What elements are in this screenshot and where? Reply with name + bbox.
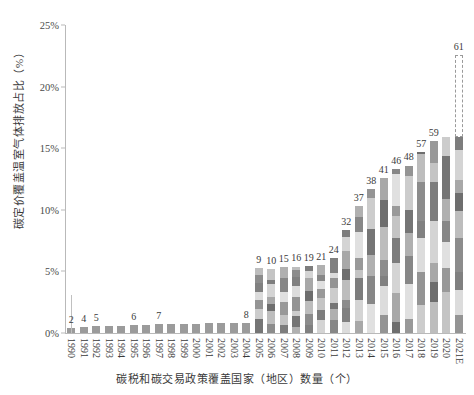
bar-segment bbox=[342, 308, 350, 322]
bar-segment bbox=[267, 324, 275, 333]
bar-segment bbox=[292, 297, 300, 311]
x-axis-tick-label: 2013 bbox=[354, 338, 364, 358]
bar-segment bbox=[442, 292, 450, 333]
x-axis-tick-label: 2014 bbox=[366, 338, 376, 358]
bar-segment bbox=[392, 263, 400, 292]
x-axis-tick-label: 1997 bbox=[154, 338, 164, 358]
bar-2017 bbox=[405, 165, 413, 333]
bar-1991 bbox=[80, 327, 88, 333]
x-axis-tick-label: 1992 bbox=[91, 338, 101, 358]
bar-value-label: 15 bbox=[279, 254, 289, 264]
bar-2014 bbox=[367, 189, 375, 333]
bar-segment bbox=[305, 291, 313, 301]
bar-segment bbox=[267, 311, 275, 323]
x-axis-tick-label: 1996 bbox=[141, 338, 151, 358]
x-axis-line bbox=[65, 333, 466, 334]
bar-segment bbox=[417, 221, 425, 238]
bar-segment bbox=[442, 199, 450, 221]
bar-segment bbox=[380, 227, 388, 261]
bar-segment bbox=[317, 320, 325, 334]
bar-segment bbox=[442, 137, 450, 156]
x-axis-tick-label: 1995 bbox=[129, 338, 139, 358]
x-axis-tick-label: 2006 bbox=[266, 338, 276, 358]
bar-segment bbox=[142, 325, 150, 333]
bar-1997 bbox=[155, 324, 163, 333]
bar-value-label: 21 bbox=[316, 252, 326, 262]
bar-segment bbox=[155, 324, 163, 333]
bar-segment bbox=[405, 166, 413, 176]
bar-segment bbox=[392, 174, 400, 206]
bar-2005 bbox=[255, 268, 263, 333]
bar-1994 bbox=[117, 326, 125, 333]
bar-1999 bbox=[180, 324, 188, 333]
bar-segment bbox=[405, 233, 413, 256]
bar-segment bbox=[442, 268, 450, 292]
y-axis-tick-mark bbox=[61, 271, 65, 272]
bar-segment bbox=[255, 300, 263, 309]
bar-segment bbox=[330, 258, 338, 273]
bar-value-label: 16 bbox=[291, 253, 301, 263]
bar-segment bbox=[255, 268, 263, 275]
bar-2006 bbox=[267, 269, 275, 333]
bar-value-label: 4 bbox=[81, 314, 86, 324]
bar-segment bbox=[80, 327, 88, 333]
bar-segment bbox=[342, 322, 350, 333]
bar-segment bbox=[405, 319, 413, 333]
y-axis-tick-mark bbox=[61, 25, 65, 26]
bar-1993 bbox=[105, 326, 113, 333]
x-axis-tick-label: 2010 bbox=[316, 338, 326, 358]
bar-segment bbox=[367, 198, 375, 229]
bar-segment bbox=[430, 302, 438, 333]
bar-segment bbox=[430, 221, 438, 263]
bar-segment bbox=[405, 176, 413, 210]
bar-segment bbox=[417, 238, 425, 272]
bar-2020 bbox=[442, 137, 450, 333]
bar-2004 bbox=[242, 323, 250, 333]
bar-segment bbox=[355, 206, 363, 217]
bar-segment bbox=[355, 217, 363, 233]
bar-segment bbox=[330, 320, 338, 333]
bar-2009 bbox=[305, 266, 313, 333]
bar-segment bbox=[442, 242, 450, 268]
bar-segment bbox=[305, 271, 313, 278]
bar-segment bbox=[217, 323, 225, 333]
bar-1995 bbox=[130, 325, 138, 333]
x-axis-tick-label: 2015 bbox=[379, 338, 389, 358]
y-axis-title: 碳定价覆盖温室气体排放占比（%） bbox=[10, 0, 26, 288]
bar-segment bbox=[380, 286, 388, 316]
bar-segment bbox=[392, 238, 400, 263]
bar-segment bbox=[417, 154, 425, 182]
bar-segment bbox=[380, 276, 388, 286]
bar-segment bbox=[342, 269, 350, 279]
bar-segment bbox=[305, 325, 313, 333]
bar-segment bbox=[130, 325, 138, 333]
x-axis-tick-label: 1999 bbox=[179, 338, 189, 358]
bar-segment bbox=[342, 230, 350, 237]
x-axis-tick-label: 2009 bbox=[304, 338, 314, 358]
bar-2019 bbox=[430, 141, 438, 333]
bar-2002 bbox=[217, 323, 225, 333]
bar-segment bbox=[342, 251, 350, 270]
x-axis-tick-label: 2007 bbox=[279, 338, 289, 358]
bar-segment bbox=[267, 284, 275, 297]
bar-segment bbox=[255, 309, 263, 319]
bar-segment bbox=[267, 304, 275, 311]
bar-value-label: 5 bbox=[94, 313, 99, 323]
bar-segment bbox=[442, 221, 450, 242]
x-axis-tick-label: 2011 bbox=[329, 338, 339, 358]
bar-segment bbox=[255, 292, 263, 300]
y-axis-tick-mark bbox=[61, 209, 65, 210]
bar-2018 bbox=[417, 152, 425, 333]
bar-segment bbox=[180, 324, 188, 333]
bar-segment bbox=[355, 270, 363, 278]
bar-segment bbox=[392, 206, 400, 216]
bar-segment-projected bbox=[455, 55, 463, 138]
bar-segment bbox=[355, 278, 363, 300]
x-axis-tick-label: 2005 bbox=[254, 338, 264, 358]
bar-segment bbox=[280, 302, 288, 315]
bar-segment bbox=[255, 283, 263, 292]
bar-value-label: 2 bbox=[69, 315, 74, 325]
bar-2008 bbox=[292, 266, 300, 333]
x-axis-tick-label: 2000 bbox=[191, 338, 201, 358]
bar-segment bbox=[455, 180, 463, 193]
